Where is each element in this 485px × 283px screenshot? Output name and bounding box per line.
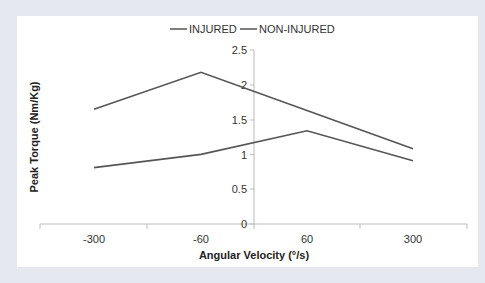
x-axis-title: Angular Velocity (°/s) (199, 249, 309, 261)
y-tick-label: 2.5 (232, 44, 247, 56)
y-tick-label: 1.5 (232, 114, 247, 126)
y-tick-label: 1 (241, 149, 247, 161)
y-axis: 0 0.5 1 1.5 2 2.5 Peak Torque (Nm/Kg) (28, 44, 254, 230)
x-tick-label: 300 (404, 233, 422, 245)
y-axis-title: Peak Torque (Nm/Kg) (28, 81, 40, 192)
line-chart: INJURED NON-INJURED -300 -60 60 300 Angu… (0, 0, 485, 283)
y-tick-label: 0.5 (232, 183, 247, 195)
legend: INJURED NON-INJURED (170, 23, 335, 35)
x-tick-label: -60 (193, 233, 209, 245)
y-tick-label: 0 (241, 218, 247, 230)
x-tick-label: -300 (83, 233, 105, 245)
legend-label-non-injured: NON-INJURED (259, 23, 335, 35)
x-axis: -300 -60 60 300 Angular Velocity (°/s) (40, 224, 467, 261)
legend-label-injured: INJURED (189, 23, 237, 35)
x-tick-label: 60 (301, 233, 313, 245)
